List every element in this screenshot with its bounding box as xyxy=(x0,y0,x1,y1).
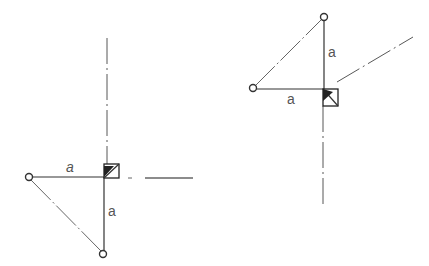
right-diagram: a a xyxy=(250,14,414,206)
left-label-horizontal: a xyxy=(66,159,74,175)
diagram-canvas: a a a a xyxy=(0,0,429,266)
right-point-left xyxy=(250,85,257,92)
right-label-vertical: a xyxy=(328,44,336,60)
right-hypotenuse xyxy=(255,19,322,86)
left-point-bottom xyxy=(100,251,107,258)
right-point-top xyxy=(321,14,328,21)
right-label-horizontal: a xyxy=(287,91,295,107)
left-label-vertical: a xyxy=(108,203,116,219)
left-point-left xyxy=(26,174,33,181)
right-diagonal-axis xyxy=(337,37,413,82)
left-diagram: a a xyxy=(26,38,194,258)
left-hypotenuse xyxy=(31,180,101,251)
